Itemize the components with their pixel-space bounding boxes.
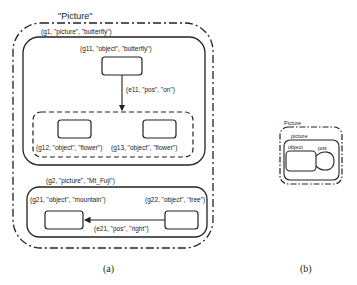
e11-label: (e11, "pos", "on") (126, 86, 175, 94)
g12-label: (g12, "object", "flower") (36, 144, 102, 152)
g2-label: (g2, "picture", "Mt_Fuji") (46, 177, 115, 185)
g13-label: (g13, "object", "flower") (111, 144, 177, 152)
picture-outer-label: "Picture" (58, 11, 92, 21)
diagram-canvas: "Picture" (g1, "picture", "butterfly") (… (0, 0, 357, 285)
g21-node[interactable] (45, 211, 83, 229)
b-picture-outer-label: Picture (284, 120, 301, 126)
e21-label: (e21, "pos", "right") (94, 225, 149, 233)
b-pos-loop (316, 152, 334, 170)
g1-label: (g1, "picture", "butterfly") (41, 28, 112, 36)
figure-b: Picture picture object pos (b) (280, 120, 342, 275)
figure-a: "Picture" (g1, "picture", "butterfly") (… (13, 11, 213, 275)
b-pos-label: pos (318, 145, 327, 151)
g13-node[interactable] (143, 120, 176, 138)
g11-label: (g11, "object", "butterfly") (80, 45, 152, 53)
caption-a: (a) (103, 263, 114, 275)
b-picture-label: picture (291, 133, 308, 139)
g12-node[interactable] (58, 120, 91, 138)
g22-label: (g22, "object", "tree") (145, 196, 205, 204)
g22-node[interactable] (165, 211, 198, 229)
g21-label: (g21, "object", "mountain") (30, 196, 106, 204)
b-object-node[interactable] (286, 151, 316, 171)
b-object-label: object (288, 144, 303, 150)
caption-b: (b) (300, 263, 312, 275)
g11-node[interactable] (102, 57, 142, 75)
